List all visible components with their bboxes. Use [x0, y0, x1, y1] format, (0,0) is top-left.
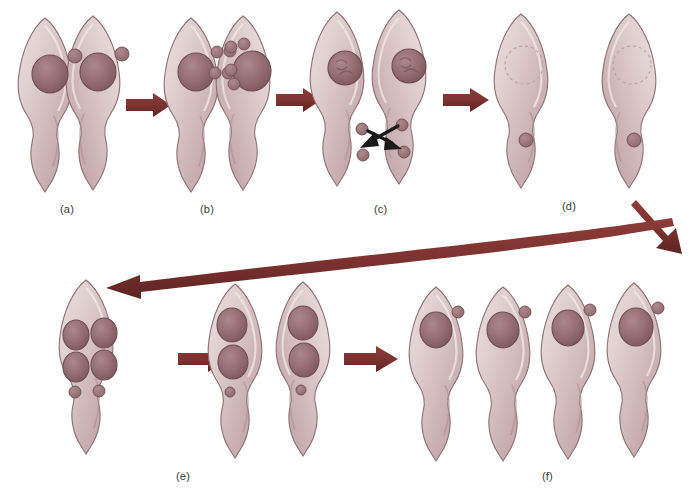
panel-f-cells [409, 283, 664, 461]
panel-a-cells [18, 16, 129, 192]
panel-label-b: (b) [200, 203, 214, 215]
nucleus [32, 55, 68, 93]
nucleus [288, 306, 318, 340]
nucleus [178, 53, 214, 91]
small-body [225, 41, 237, 53]
small-body [68, 49, 82, 63]
panel-d-cells [494, 14, 656, 188]
small-body [519, 133, 533, 147]
cell-division-diagram: (a) (b) (c) (d) (e) (f) [0, 0, 696, 495]
small-body [209, 67, 221, 79]
nucleus [289, 343, 319, 377]
arrow-c-to-d [443, 88, 489, 112]
panel-label-e: (e) [176, 470, 190, 482]
small-body [652, 302, 664, 314]
nucleus [91, 318, 117, 348]
panel-c-cells [310, 10, 426, 186]
panel-b-cells [164, 16, 271, 192]
figure-illustration [0, 0, 696, 495]
nucleus [63, 320, 89, 350]
small-body [584, 304, 596, 316]
small-body [225, 64, 237, 76]
nucleus [80, 53, 116, 91]
panel-e-cells [59, 280, 117, 454]
small-body [69, 386, 81, 398]
panel-label-a: (a) [60, 203, 74, 215]
small-body [519, 306, 531, 318]
small-body [211, 46, 223, 58]
small-body [228, 78, 240, 90]
panel-label-c: (c) [374, 203, 387, 215]
nucleus [91, 350, 117, 380]
nucleus [217, 308, 247, 342]
small-body [115, 47, 129, 61]
small-body [627, 133, 641, 147]
nucleus [487, 312, 519, 348]
panel-label-f: (f) [542, 470, 553, 482]
arrow-wrap-to-e [106, 218, 674, 299]
arrow-a-to-b [126, 93, 171, 117]
nucleus [63, 352, 89, 382]
arrow-e-daughters-to-f [344, 346, 398, 372]
small-body [356, 123, 368, 135]
panel-label-d: (d) [562, 200, 576, 212]
small-body [225, 387, 235, 397]
nucleus [552, 310, 584, 346]
nucleus [218, 345, 248, 379]
small-body [93, 385, 105, 397]
panel-e-daughter-cells [208, 282, 330, 458]
small-body [296, 385, 306, 395]
nucleus [619, 308, 653, 346]
small-body [357, 149, 369, 161]
small-body [238, 38, 250, 50]
nucleus [420, 312, 452, 348]
small-body [452, 306, 464, 318]
